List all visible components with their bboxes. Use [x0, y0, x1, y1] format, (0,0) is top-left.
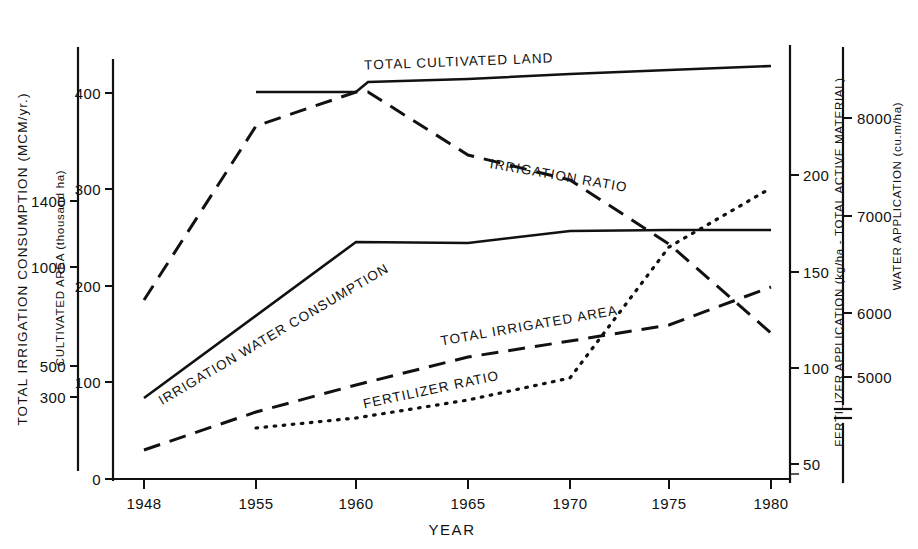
chart-figure: 1400 1000 500 300 TOTAL IRRIGATION CONSU… — [0, 0, 918, 549]
ticklabel-x-1970: 1970 — [553, 495, 588, 512]
ticklabel-right-100: 100 — [803, 360, 829, 377]
ticklabel-right-far-5000: 5000 — [857, 369, 892, 386]
ticklabel-right-far-7000: 7000 — [857, 208, 892, 225]
ticklabel-x-1955: 1955 — [239, 495, 274, 512]
ticklabel-left-far-300: 300 — [40, 389, 66, 406]
axis-cultivated-area: 400 300 200 100 0 CULTIVATED AREA (thous… — [54, 60, 113, 488]
ticklabel-left-0: 0 — [92, 471, 101, 488]
series-irrigation-ratio — [144, 92, 771, 333]
axis-title-year: YEAR — [428, 521, 475, 538]
annotation-fertilizer-ratio: FERTILIZER RATIO — [362, 368, 501, 411]
annotation-total-cultivated-land: TOTAL CULTIVATED LAND — [364, 50, 554, 72]
series-total-cultivated-land — [256, 66, 771, 92]
ticklabel-left-200: 200 — [75, 278, 101, 295]
ticklabel-right-150: 150 — [803, 264, 829, 281]
axis-fertilizer-application: 200 150 100 50 FERTILIZER APPLICATION (k… — [790, 46, 845, 482]
series-total-irrigated-area — [144, 287, 771, 450]
ticklabel-right-far-8000: 8000 — [857, 110, 892, 127]
axis-total-irrigation-consumption: 1400 1000 500 300 TOTAL IRRIGATION CONSU… — [15, 48, 78, 470]
axis-title-total-irrigation-consumption: TOTAL IRRIGATION CONSUMPTION (MCM/yr.) — [15, 92, 30, 425]
axis-title-water-application: WATER APPLICATION (cu.m/ha) — [891, 102, 903, 291]
ticklabel-x-1965: 1965 — [451, 495, 486, 512]
axis-year: 1948 1955 1960 1965 1970 1975 1980 YEAR — [113, 479, 790, 538]
annotation-total-irrigated-area: TOTAL IRRIGATED AREA — [439, 303, 619, 349]
ticklabel-right-200: 200 — [803, 167, 829, 184]
ticklabel-right-50: 50 — [803, 456, 821, 473]
chart-svg: 1400 1000 500 300 TOTAL IRRIGATION CONSU… — [0, 0, 918, 549]
annotation-irrigation-ratio: IRRIGATION RATIO — [489, 156, 629, 195]
ticklabel-x-1975: 1975 — [652, 495, 687, 512]
series-irrigation-water-consumption — [144, 230, 771, 398]
ticklabel-x-1948: 1948 — [127, 495, 162, 512]
axis-title-cultivated-area: CULTIVATED AREA (thousand ha) — [54, 170, 66, 367]
ticklabel-x-1960: 1960 — [339, 495, 374, 512]
axis-water-application: 8000 7000 6000 5000 WATER APPLICATION (c… — [835, 48, 903, 482]
ticklabel-left-100: 100 — [75, 374, 101, 391]
ticklabel-left-400: 400 — [75, 85, 101, 102]
ticklabel-right-far-6000: 6000 — [857, 305, 892, 322]
ticklabel-left-300: 300 — [75, 181, 101, 198]
ticklabel-x-1980: 1980 — [754, 495, 789, 512]
